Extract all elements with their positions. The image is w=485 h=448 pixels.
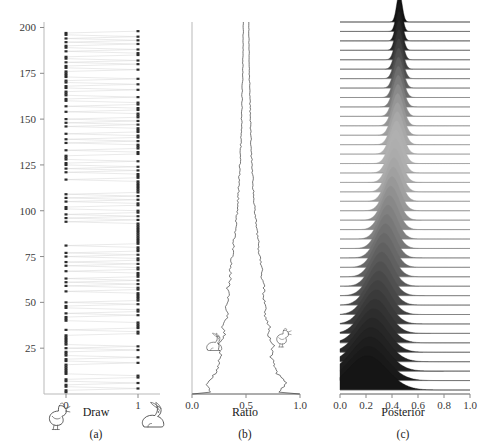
panel-a-dot: [137, 202, 140, 204]
panel-a-link-line: [66, 260, 138, 262]
panel-a-dot: [65, 261, 68, 263]
panel-a-link-line: [66, 192, 138, 194]
panel-a-dot: [65, 197, 68, 199]
panel-a-link-line: [66, 387, 138, 389]
panel-a-dot: [137, 36, 140, 38]
panel-a-link-line: [66, 312, 138, 314]
panel-a-dot: [65, 149, 68, 151]
panel-a-link-line: [66, 301, 138, 303]
panel-a-link-line: [66, 264, 138, 266]
panel-a-dot: [65, 85, 68, 87]
panel-a-dot: [137, 48, 140, 50]
panel-c-x-tick-label: 0.8: [437, 399, 451, 411]
panel-a-link-line: [66, 38, 138, 40]
panel-a-link-line: [66, 35, 138, 37]
panel-a-dot: [137, 151, 140, 153]
panel-a-link-line: [66, 363, 138, 365]
panel-a-link-line: [66, 282, 138, 284]
panel-a-link-line: [66, 266, 138, 268]
panel-a-dot: [65, 168, 68, 170]
panel-a-dot: [137, 180, 140, 182]
panel-a-dot: [137, 263, 140, 265]
panel-a-link-line: [66, 37, 138, 39]
panel-a-link-line: [66, 262, 138, 264]
panel-a-dot: [137, 287, 140, 289]
panel-a-dot: [65, 37, 68, 39]
panel-a-dot: [137, 375, 140, 377]
panel-a-y-tick-label: 100: [20, 205, 37, 217]
panel-a-link-line: [66, 68, 138, 70]
panel-b-axes: 0.00.51.0: [185, 22, 307, 411]
panel-a-link-line: [66, 42, 138, 44]
panel-a-dot: [137, 89, 140, 91]
panel-a-dot: [65, 70, 68, 72]
panel-a-dot: [65, 41, 68, 43]
panel-b-lower-bound-curve: [206, 22, 243, 392]
panel-a-link-line: [66, 350, 138, 352]
panel-a-link-line: [66, 334, 138, 336]
panel-a-y-tick-label: 150: [20, 113, 37, 125]
panel-a-link-line: [66, 220, 138, 222]
panel-a-dot: [65, 252, 68, 254]
panel-a-dot: [137, 135, 140, 137]
panel-a-link-line: [66, 222, 138, 224]
panel-a-dot: [65, 200, 68, 202]
panel-a-dot: [65, 290, 68, 292]
panel-a-dot: [137, 219, 140, 221]
panel-a-link-line: [66, 125, 138, 127]
panel-a-dot: [137, 215, 140, 217]
panel-a-link-line: [66, 97, 138, 99]
panel-b-label: (b): [238, 428, 252, 441]
panel-a-dot: [137, 246, 140, 248]
panel-a-dot: [65, 122, 68, 124]
panel-a-link-line: [66, 378, 138, 380]
panel-a-dot: [137, 292, 140, 294]
panel-a-dot: [137, 120, 140, 122]
panel-a-link-line: [66, 383, 138, 385]
panel-a-link-line: [66, 257, 138, 259]
panel-a-link-line: [66, 119, 138, 121]
panel-a-dot: [137, 169, 140, 171]
panel-a-dot: [65, 255, 68, 257]
panel-a-dot: [137, 257, 140, 259]
panel-b-upper-bound-curve: [249, 22, 287, 392]
panel-a-dot: [65, 244, 68, 246]
panel-a-link-line: [66, 148, 138, 150]
panel-a-link-line: [66, 205, 138, 207]
panel-a-link-line: [66, 154, 138, 156]
panel-a-link-line: [66, 218, 138, 220]
panel-a-dot: [137, 63, 140, 65]
panel-c-x-tick-label: 1.0: [463, 399, 477, 411]
panel-a-dot: [137, 144, 140, 146]
panel-a-link-line: [66, 84, 138, 86]
panel-a-dot: [137, 309, 140, 311]
panel-a-link-line: [66, 126, 138, 128]
panel-a-dot: [137, 69, 140, 71]
panel-a-link-line: [66, 101, 138, 103]
panel-a-dot: [137, 173, 140, 175]
panel-a-link-line: [66, 82, 138, 84]
panel-a-link-line: [66, 291, 138, 293]
panel-a-dot: [65, 301, 68, 303]
panel-a-dot: [137, 39, 140, 41]
panel-a-link-line: [66, 180, 138, 182]
panel-c-x-tick-label: 0.0: [333, 399, 347, 411]
panel-a-link-line: [66, 106, 138, 108]
panel-a-link-line: [66, 70, 138, 72]
panel-a-dot: [65, 178, 68, 180]
panel-a-link-line: [66, 150, 138, 152]
panel-a-dot: [65, 105, 68, 107]
panel-a-dot: [65, 162, 68, 164]
panel-c: 0.00.20.40.60.81.0 Posterior (c): [333, 0, 477, 441]
panel-a-link-line: [66, 60, 138, 62]
panel-a-link-line: [66, 279, 138, 281]
panel-a-dot: [65, 111, 68, 113]
panel-a-y-tick-label: 25: [25, 342, 37, 354]
panel-a-dot: [65, 364, 68, 366]
panel-a-dot: [65, 384, 68, 386]
panel-c-label: (c): [397, 428, 410, 441]
panel-a-link-line: [66, 198, 138, 200]
panel-a-dot: [137, 266, 140, 268]
panel-a-link-line: [66, 357, 138, 359]
panel-a-link-line: [66, 381, 138, 383]
